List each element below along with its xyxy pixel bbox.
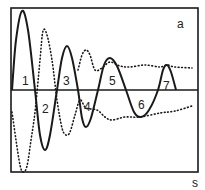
lobe-label-5: 5 (109, 74, 116, 88)
lobe-label-6: 6 (138, 98, 145, 112)
x-axis-label: s (192, 176, 198, 190)
dotted-curve-1 (12, 29, 192, 172)
lobe-label-7: 7 (163, 79, 170, 93)
lobe-label-2: 2 (42, 102, 49, 116)
solid-curve (12, 11, 176, 150)
panel-label: a (177, 17, 184, 31)
lobe-label-3: 3 (63, 74, 70, 88)
chart: 1 2 3 4 5 6 7 a s (0, 0, 205, 190)
dotted-curve-2 (78, 50, 192, 71)
lobe-label-1: 1 (22, 74, 29, 88)
lobe-label-4: 4 (84, 100, 91, 114)
